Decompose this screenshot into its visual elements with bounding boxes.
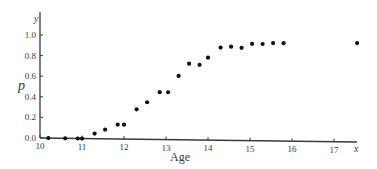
data-point (145, 100, 149, 104)
y-tick-label: 0.6 (25, 71, 37, 81)
x-tick-label: 10 (36, 141, 46, 151)
data-point (103, 127, 107, 131)
x-tick-label: 12 (120, 142, 129, 152)
x-axis-line (40, 138, 357, 142)
data-point (219, 45, 223, 49)
x-axis-variable: x (353, 143, 359, 154)
data-point (261, 42, 265, 46)
data-point (271, 41, 275, 45)
x-tick-label: 15 (246, 144, 256, 154)
data-point (46, 136, 50, 140)
x-tick-label: 11 (78, 142, 87, 152)
data-points (46, 41, 359, 141)
data-point (282, 41, 286, 45)
data-point (250, 42, 254, 46)
data-point (76, 136, 80, 140)
data-point (240, 46, 244, 50)
data-point (80, 136, 84, 140)
data-point (177, 74, 181, 78)
x-axis-title: Age (170, 150, 190, 164)
data-point (187, 62, 191, 66)
y-tick-label: 1.0 (25, 30, 37, 40)
data-point (63, 136, 67, 140)
y-tick-label: 0.8 (25, 51, 37, 61)
x-tick-label: 14 (204, 143, 214, 153)
y-tick-label: 0.2 (25, 112, 36, 122)
data-point (122, 123, 126, 127)
data-point (206, 56, 210, 60)
x-tick-label: 16 (288, 144, 298, 154)
y-tick-label: 0.4 (25, 92, 37, 102)
y-axis: 0.00.20.40.60.81.0 (25, 12, 43, 143)
data-point (158, 90, 162, 94)
data-point (198, 63, 202, 67)
data-point (229, 45, 233, 49)
data-point (116, 122, 120, 126)
data-point (166, 90, 170, 94)
data-point (355, 41, 359, 45)
y-axis-variable: y (33, 13, 39, 24)
data-point (135, 107, 139, 111)
x-tick-label: 17 (330, 145, 340, 155)
y-axis-title: p (17, 78, 25, 93)
scatter-chart: 0.00.20.40.60.81.0 1011121314151617 y x … (0, 0, 377, 169)
data-point (93, 131, 97, 135)
